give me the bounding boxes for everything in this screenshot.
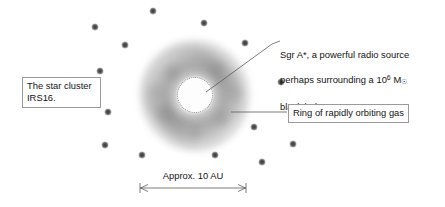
star-dot-icon bbox=[150, 8, 157, 15]
arrow-left-icon bbox=[141, 185, 149, 192]
scale-bar-label: Approx. 10 AU bbox=[140, 170, 246, 181]
star-dot-icon bbox=[201, 20, 208, 27]
star-dot-icon bbox=[92, 24, 99, 31]
arrow-right-icon bbox=[238, 185, 246, 192]
star-dot-icon bbox=[212, 152, 219, 159]
star-dot-icon bbox=[290, 141, 297, 148]
annotation-sgr-solar-symbol: ☉ bbox=[401, 78, 407, 87]
annotation-sgr-line1: Sgr A*, a powerful radio source bbox=[280, 49, 409, 61]
annotation-star-cluster: The star cluster IRS16. bbox=[22, 77, 101, 108]
star-dot-icon bbox=[259, 159, 266, 166]
star-dot-icon bbox=[105, 109, 112, 116]
galactic-center-diagram: The star cluster IRS16. Sgr A*, a powerf… bbox=[0, 0, 445, 207]
star-dot-icon bbox=[251, 124, 258, 131]
star-dot-icon bbox=[242, 40, 249, 47]
sgr-a-star-leader bbox=[206, 44, 272, 92]
annotation-gas-ring: Ring of rapidly orbiting gas bbox=[288, 104, 409, 123]
star-dot-icon bbox=[97, 68, 104, 75]
sgr-a-star-leader-tick bbox=[272, 41, 280, 44]
annotation-sgr-line2-text: perhaps surrounding a 10 bbox=[280, 74, 387, 85]
star-dot-icon bbox=[122, 42, 129, 49]
star-dot-icon bbox=[102, 142, 109, 149]
annotation-sgr-line2: perhaps surrounding a 106 M☉ bbox=[280, 74, 409, 89]
sgr-a-star-core-edge bbox=[177, 77, 213, 113]
star-dot-icon bbox=[139, 152, 146, 159]
